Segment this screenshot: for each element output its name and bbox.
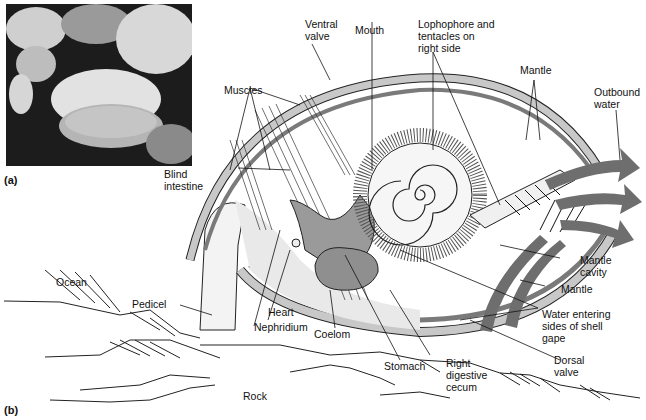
heart-shape [292, 239, 300, 247]
label-mantle-top: Mantle [520, 64, 552, 76]
lophophore-shape [360, 135, 480, 255]
label-heart: Heart [268, 306, 294, 318]
digestive-gland-shape [315, 248, 378, 291]
label-ventral-valve: Ventral valve [305, 18, 338, 42]
label-mouth: Mouth [355, 24, 384, 36]
label-outbound-water: Outbound water [594, 86, 640, 110]
label-lophophore: Lophophore and tentacles on right side [418, 18, 495, 54]
label-right-digestive-cecum: Right digestive cecum [446, 357, 487, 393]
label-blind-intestine: Blind intestine [164, 168, 203, 192]
label-nephridium: Nephridium [254, 321, 308, 333]
label-muscles: Muscles [224, 84, 263, 96]
label-mantle-lower: Mantle [561, 283, 593, 295]
brachiopod-anatomy-diagram [0, 0, 646, 420]
water-arrows [480, 148, 642, 332]
label-stomach: Stomach [384, 360, 425, 372]
label-pedicel: Pedicel [132, 298, 166, 310]
label-coelom: Coelom [314, 328, 350, 340]
outbound-arrow-middle [555, 184, 642, 214]
label-dorsal-valve: Dorsal valve [554, 354, 584, 378]
label-water-entering: Water entering sides of shell gape [542, 308, 610, 344]
label-mantle-cavity: Mantle cavity [580, 254, 612, 278]
label-rock: Rock [243, 390, 267, 402]
label-ocean: Ocean [56, 276, 87, 288]
pedicel-shape [200, 203, 245, 330]
